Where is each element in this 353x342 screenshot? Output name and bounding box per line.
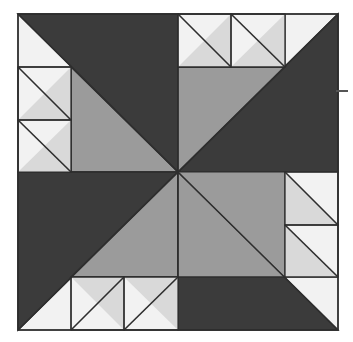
pinwheel-outline-group [18, 14, 338, 330]
quilt-block-diagram [0, 0, 353, 342]
block-group [18, 14, 338, 330]
quilt-svg-canvas [0, 0, 353, 342]
right-edge-tick-icon [336, 90, 348, 92]
